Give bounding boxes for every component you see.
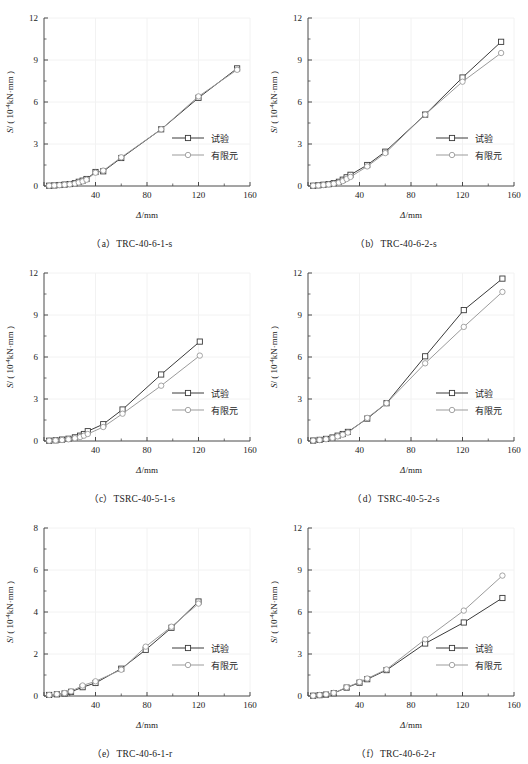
data-point [197,353,202,358]
y-tick-label: 12 [293,268,302,278]
data-point [62,690,67,695]
data-point [422,112,427,117]
x-tick-label: 120 [456,190,470,200]
data-point [67,182,72,187]
data-point [500,595,505,600]
x-tick-label: 80 [407,700,417,710]
data-point [158,127,163,132]
legend-label-fe: 有限元 [211,405,238,416]
data-point [323,436,328,441]
data-point [365,676,370,681]
legend-marker-circle [185,407,190,412]
y-tick-label: 6 [34,565,39,575]
data-point [331,690,336,695]
x-tick-label: 40 [91,445,101,455]
data-point [54,691,59,696]
legend-label-test: 试验 [211,133,229,144]
y-tick-label: 3 [298,394,303,404]
legend-marker-circle [185,152,190,157]
legend-marker-circle [449,407,454,412]
data-point [357,679,362,684]
plot-area-d: 4080120160036912试验有限元Δ/mmS/ ( 10-4kN·mm … [264,255,528,509]
x-tick-label: 40 [91,700,101,710]
chart-panel-d: 4080120160036912试验有限元Δ/mmS/ ( 10-4kN·mm … [264,255,528,509]
x-tick-label: 80 [407,190,417,200]
x-axis-title: Δ/mm [135,465,158,475]
legend-marker-square [185,135,190,140]
data-point [316,183,321,188]
legend-label-test: 试验 [211,388,229,399]
data-point [317,437,322,442]
x-tick-label: 120 [192,190,206,200]
panel-caption-a: （a）TRC-40-6-1-s [0,236,264,250]
data-point [196,94,201,99]
legend-c: 试验有限元 [172,388,238,416]
data-point [345,430,350,435]
data-point [365,415,370,420]
x-tick-label: 80 [143,700,153,710]
data-point [52,183,57,188]
data-point [331,181,336,186]
chart-panel-b: 4080120160036912试验有限元Δ/mmS/ ( 10-4kN·mm … [264,0,528,254]
y-axis-title: S/ ( 10-4kN·mm ) [4,326,16,388]
y-axis-title: S/ ( 10-4kN·mm ) [268,326,280,388]
series-fe [310,289,505,443]
plot-area-c: 4080120160036912试验有限元Δ/mmS/ ( 10-4kN·mm … [0,255,264,509]
data-point [500,289,505,294]
data-point [461,308,466,313]
legend-f: 试验有限元 [436,643,502,671]
legend-marker-circle [185,662,190,667]
series-test [47,339,203,443]
x-tick-label: 120 [192,700,206,710]
legend-a: 试验有限元 [172,133,238,161]
data-point [323,692,328,697]
series-fe [310,50,503,188]
x-tick-label: 160 [243,445,257,455]
series-fe [46,353,202,444]
legend-marker-circle [449,152,454,157]
data-point [499,39,504,44]
y-tick-label: 9 [34,310,39,320]
data-point [423,354,428,359]
tick-marks: 4080120160036912 [29,268,257,455]
plot-area-e: 408012016002468试验有限元Δ/mmS/ ( 10-4kN·mm ) [0,510,264,764]
legend-label-fe: 有限元 [475,150,502,161]
tick-marks: 408012016002468 [34,523,258,710]
x-tick-label: 160 [507,445,521,455]
y-tick-label: 3 [298,649,303,659]
x-axis-title: Δ/mm [399,720,422,730]
data-point [310,693,315,698]
data-point [348,174,353,179]
x-tick-label: 80 [407,445,417,455]
x-tick-label: 40 [355,190,365,200]
data-point [422,361,427,366]
y-tick-label: 0 [34,181,39,191]
plot-area-a: 4080120160036912试验有限元Δ/mmS/ ( 10-4kN·mm … [0,0,264,254]
data-point [101,424,106,429]
data-point [422,637,427,642]
legend-marker-square [449,135,454,140]
x-tick-label: 80 [143,190,153,200]
x-axis-title: Δ/mm [399,465,422,475]
data-point [310,438,315,443]
data-point [384,401,389,406]
panel-caption-e: （e）TRC-40-6-1-r [0,746,264,760]
panel-caption-c: （c）TSRC-40-5-1-s [0,491,264,505]
y-tick-label: 2 [34,649,39,659]
data-point [119,155,124,160]
data-point [335,434,340,439]
data-point [317,692,322,697]
panel-caption-d: （d）TSRC-40-5-2-s [264,491,528,505]
legend-marker-square [185,645,190,650]
data-point [46,438,51,443]
legend-label-fe: 有限元 [475,660,502,671]
x-axis-title: Δ/mm [399,210,422,220]
data-point [310,183,315,188]
data-point [461,608,466,613]
data-point [80,683,85,688]
legend-label-test: 试验 [475,133,493,144]
y-axis-title: S/ ( 10-4kN·mm ) [268,71,280,133]
series-fe [46,67,239,188]
y-tick-label: 9 [298,565,303,575]
data-point [460,79,465,84]
